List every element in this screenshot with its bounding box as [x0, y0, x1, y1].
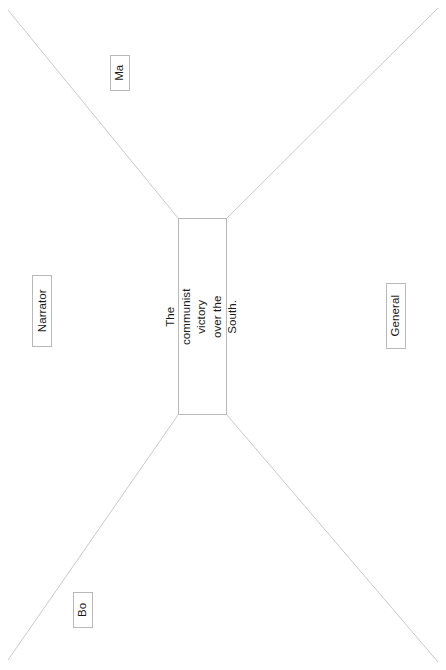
node-bo[interactable]: Bo	[73, 592, 93, 628]
center-node-label: The communist victory over the South.	[164, 288, 242, 345]
connector-top-right-line	[227, 8, 438, 218]
center-node[interactable]: The communist victory over the South.	[178, 218, 227, 415]
connector-top-left-line	[8, 10, 178, 218]
node-ma-label: Ma	[112, 65, 128, 81]
diagram-canvas: The communist victory over the South. Ma…	[0, 0, 446, 670]
node-narrator-label: Narrator	[34, 290, 50, 333]
node-bo-label: Bo	[75, 603, 91, 617]
node-general[interactable]: General	[386, 283, 406, 349]
node-narrator[interactable]: Narrator	[32, 275, 52, 347]
connector-bottom-right-line	[227, 415, 438, 662]
node-ma[interactable]: Ma	[110, 55, 130, 91]
node-general-label: General	[388, 295, 404, 337]
connector-bottom-left-line	[8, 415, 178, 660]
